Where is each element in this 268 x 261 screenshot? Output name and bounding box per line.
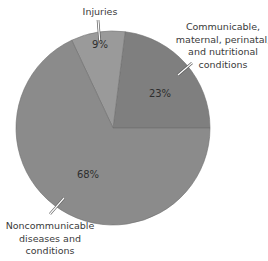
label-noncommunicable: Noncommunicable diseases and conditions (6, 220, 95, 258)
label-injuries: Injuries (83, 6, 118, 19)
value-label-injuries: 9% (92, 39, 108, 50)
value-label-noncommunicable: 68% (77, 169, 99, 180)
label-communicable-line-4: conditions (176, 59, 268, 72)
label-noncommunicable-line-2: diseases and (6, 233, 95, 246)
label-communicable-line-3: and nutritional (176, 46, 268, 59)
label-noncommunicable-line-1: Noncommunicable (6, 220, 95, 233)
label-communicable-line-2: maternal, perinatal, (176, 34, 268, 47)
label-communicable: Communicable, maternal, perinatal, and n… (176, 21, 268, 71)
value-label-communicable: 23% (149, 88, 171, 99)
label-noncommunicable-line-3: conditions (6, 245, 95, 258)
label-communicable-line-1: Communicable, (176, 21, 268, 34)
label-injuries-line-1: Injuries (83, 6, 118, 19)
